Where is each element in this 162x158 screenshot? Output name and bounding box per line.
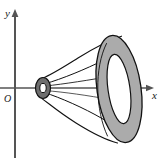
y-axis-label: y	[4, 7, 10, 19]
origin-label: O	[4, 93, 11, 104]
math-figure: y x O	[0, 0, 162, 158]
small-annulus	[35, 78, 50, 99]
small-annulus-inner-edge	[40, 83, 46, 92]
solid-of-revolution-diagram: y x O	[0, 0, 162, 158]
y-axis-arrowhead	[12, 9, 19, 17]
x-axis-label: x	[151, 89, 157, 101]
large-annulus	[90, 32, 149, 145]
